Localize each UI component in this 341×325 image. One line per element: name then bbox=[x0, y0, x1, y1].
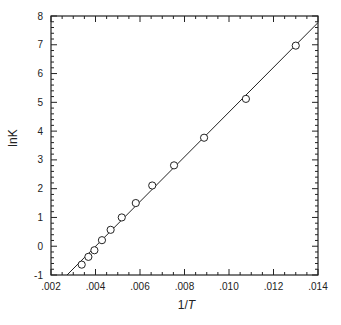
y-tick-labels: -1012345678 bbox=[34, 11, 43, 281]
y-tick-label: 6 bbox=[37, 68, 43, 79]
x-tick-labels: .002.004.006.008.010.012.014 bbox=[41, 281, 328, 292]
data-point bbox=[200, 134, 207, 141]
x-tick-label: .012 bbox=[264, 281, 284, 292]
data-point bbox=[292, 42, 299, 49]
data-point bbox=[118, 214, 125, 221]
data-points bbox=[78, 42, 299, 268]
data-point bbox=[85, 253, 92, 260]
data-point bbox=[78, 261, 85, 268]
y-axis-title: lnK bbox=[6, 129, 20, 146]
y-tick-label: 4 bbox=[37, 126, 43, 137]
plot-frame bbox=[51, 16, 318, 275]
x-tick-label: .004 bbox=[86, 281, 106, 292]
x-tick-label: .014 bbox=[308, 281, 328, 292]
data-point bbox=[91, 247, 98, 254]
x-tick-label: .006 bbox=[130, 281, 150, 292]
y-tick-label: 7 bbox=[37, 39, 43, 50]
axis-ticks bbox=[51, 16, 318, 275]
x-tick-label: .008 bbox=[175, 281, 195, 292]
y-tick-label: 1 bbox=[37, 212, 43, 223]
x-axis-title: 1/T bbox=[178, 298, 197, 312]
data-point bbox=[170, 162, 177, 169]
x-tick-label: .010 bbox=[219, 281, 239, 292]
y-tick-label: 5 bbox=[37, 97, 43, 108]
chart: .002.004.006.008.010.012.014 -1012345678… bbox=[0, 0, 341, 325]
y-tick-label: 8 bbox=[37, 11, 43, 22]
data-point bbox=[98, 237, 105, 244]
data-point bbox=[132, 199, 139, 206]
x-tick-label: .002 bbox=[41, 281, 61, 292]
y-tick-label: 0 bbox=[37, 241, 43, 252]
data-point bbox=[242, 95, 249, 102]
y-tick-label: 2 bbox=[37, 183, 43, 194]
data-point bbox=[107, 226, 114, 233]
y-tick-label: -1 bbox=[34, 270, 43, 281]
y-tick-label: 3 bbox=[37, 154, 43, 165]
data-point bbox=[149, 182, 156, 189]
